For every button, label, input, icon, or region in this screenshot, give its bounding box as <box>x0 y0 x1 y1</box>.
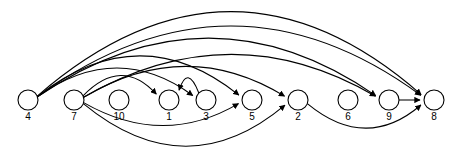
node-label-6: 6 <box>345 111 351 122</box>
node-label-2: 2 <box>295 111 301 122</box>
node-circle-3[interactable] <box>196 90 216 110</box>
node-label-4: 4 <box>25 111 31 122</box>
node-circle-9[interactable] <box>379 90 399 110</box>
node-layer: 47101352698 <box>18 90 444 122</box>
node-circle-4[interactable] <box>18 90 38 110</box>
graph-node-4[interactable]: 4 <box>18 90 38 122</box>
graph-node-5[interactable]: 5 <box>242 90 262 122</box>
graph-node-7[interactable]: 7 <box>64 90 84 122</box>
graph-diagram: 47101352698 <box>0 0 459 153</box>
edge-layer <box>37 12 421 147</box>
graph-edge-4-to-8 <box>37 26 420 97</box>
node-label-3: 3 <box>203 111 209 122</box>
graph-edge-2-to-8 <box>307 104 421 129</box>
graph-node-6[interactable]: 6 <box>338 90 358 122</box>
node-circle-8[interactable] <box>424 90 444 110</box>
node-label-8: 8 <box>431 111 437 122</box>
graph-canvas: 47101352698 <box>0 0 459 153</box>
node-circle-10[interactable] <box>109 90 129 110</box>
node-circle-2[interactable] <box>288 90 308 110</box>
graph-node-10[interactable]: 10 <box>109 90 129 122</box>
graph-edge-3-to-1 <box>179 78 199 93</box>
graph-node-3[interactable]: 3 <box>196 90 216 122</box>
node-label-9: 9 <box>386 111 392 122</box>
node-circle-1[interactable] <box>159 90 179 110</box>
graph-node-9[interactable]: 9 <box>379 90 399 122</box>
graph-node-8[interactable]: 8 <box>424 90 444 122</box>
graph-node-2[interactable]: 2 <box>288 90 308 122</box>
node-label-1: 1 <box>166 111 172 122</box>
node-label-5: 5 <box>249 111 255 122</box>
node-label-7: 7 <box>71 111 77 122</box>
graph-node-1[interactable]: 1 <box>159 90 179 122</box>
node-circle-6[interactable] <box>338 90 358 110</box>
node-circle-5[interactable] <box>242 90 262 110</box>
node-label-10: 10 <box>113 111 125 122</box>
node-circle-7[interactable] <box>64 90 84 110</box>
